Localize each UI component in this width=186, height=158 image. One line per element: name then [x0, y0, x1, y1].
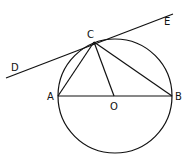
tangent-line-de [6, 14, 173, 78]
label-a: A [47, 91, 54, 102]
segment-co [94, 42, 114, 96]
segment-cb [94, 42, 172, 96]
segment-ca [58, 42, 94, 96]
label-o: O [110, 101, 118, 112]
label-c: C [87, 29, 94, 40]
label-d: D [11, 62, 19, 73]
label-e: E [164, 16, 170, 27]
label-b: B [175, 91, 182, 102]
geometry-diagram: D E C A B O [0, 0, 186, 158]
